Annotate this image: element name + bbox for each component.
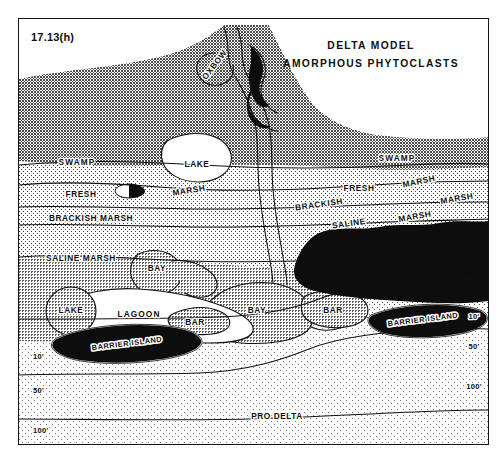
label-bar-left: BAR <box>185 317 205 327</box>
marine-black-right <box>294 221 488 303</box>
depth-label-right-50: 50' <box>468 342 479 351</box>
label-brackish-marsh-left: BRACKISH MARSH <box>49 213 133 223</box>
label-lagoon: LAGOON <box>117 309 160 319</box>
depth-label-right-100: 100' <box>466 382 482 391</box>
label-swamp-right: SWAMP <box>379 153 416 163</box>
title-line-2: AMORPHOUS PHYTOCLASTS <box>283 58 459 69</box>
label-saline-marsh-left: SALINE MARSH <box>46 253 116 263</box>
depth-label-left-50: 50' <box>33 386 44 395</box>
label-bar-right: BAR <box>323 305 343 315</box>
label-bay-upper-left: BAY <box>148 263 166 273</box>
label-lake-upper: LAKE <box>185 159 210 169</box>
label-fresh-right: FRESH <box>344 183 375 193</box>
figure-number: 17.13(h) <box>31 31 74 43</box>
label-fresh-left: FRESH <box>66 189 97 199</box>
title-line-1: DELTA MODEL <box>327 40 414 51</box>
figure-stage: 17.13(h) DELTA MODEL AMORPHOUS PHYTOCLAS… <box>0 0 504 467</box>
label-pro-delta: PRO DELTA <box>251 411 303 421</box>
delta-model-figure: 17.13(h) DELTA MODEL AMORPHOUS PHYTOCLAS… <box>18 18 489 445</box>
delta-model-map: 17.13(h) DELTA MODEL AMORPHOUS PHYTOCLAS… <box>19 19 488 444</box>
depth-label-right-10: 10' <box>468 312 479 321</box>
label-swamp-left: SWAMP <box>59 157 96 167</box>
label-lake-lower: LAKE <box>59 305 84 315</box>
label-bay-center: BAY <box>248 305 266 315</box>
depth-label-left-100: 100' <box>33 426 49 435</box>
depth-label-left-10: 10' <box>33 352 44 361</box>
lake-upper-polygon <box>162 134 232 182</box>
